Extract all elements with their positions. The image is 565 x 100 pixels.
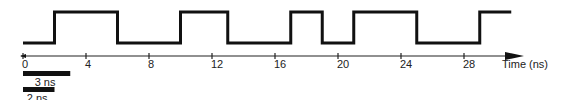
- tick-label: 20: [337, 59, 349, 70]
- timing-diagram: [0, 0, 565, 100]
- tick-label: 24: [400, 59, 412, 70]
- axis-label: Time (ns): [502, 59, 548, 70]
- tick-label: 8: [148, 59, 154, 70]
- tick-label: 4: [85, 59, 91, 70]
- tick-label: 28: [463, 59, 475, 70]
- waveform: [23, 12, 511, 43]
- scale-bar-label: 2 ns: [27, 93, 48, 100]
- time-axis: [20, 52, 524, 60]
- tick-label: 16: [274, 59, 286, 70]
- tick-label: 12: [211, 59, 223, 70]
- tick-label: 0: [22, 59, 28, 70]
- scale-bar-label: 3 ns: [35, 77, 56, 88]
